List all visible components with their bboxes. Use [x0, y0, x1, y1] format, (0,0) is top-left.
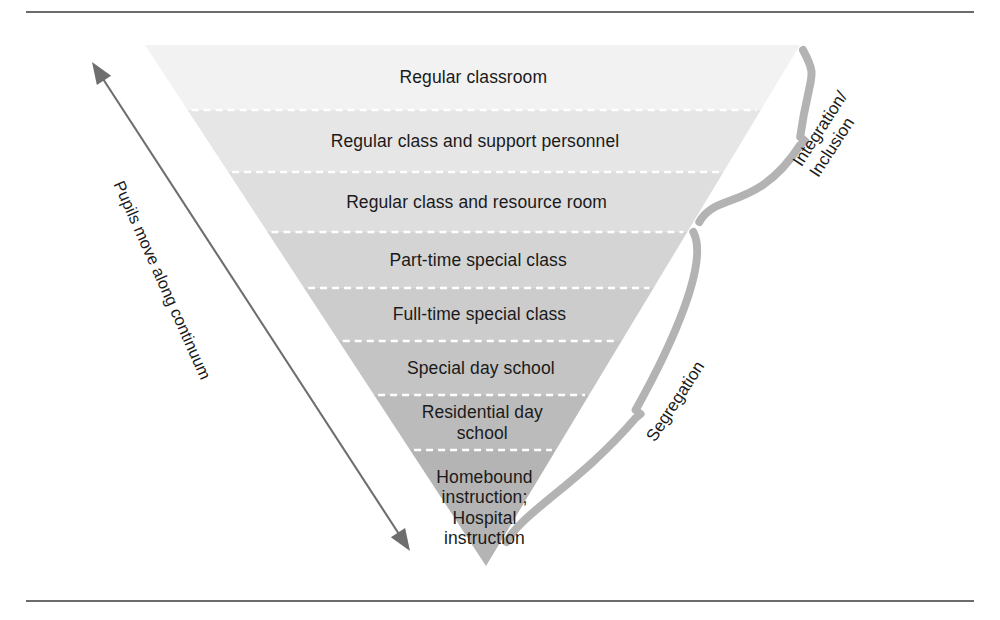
brace-segregation [506, 232, 697, 542]
arrow-head-up-icon [92, 62, 111, 85]
arrow-shaft [101, 76, 400, 536]
figure-container: Regular classroomRegular class and suppo… [0, 0, 1000, 620]
brace-group [506, 50, 811, 542]
continuum-arrow [92, 62, 410, 551]
brace-integration-inclusion [699, 50, 811, 222]
decoration-layer [0, 0, 1000, 620]
arrow-head-down-icon [391, 528, 410, 551]
